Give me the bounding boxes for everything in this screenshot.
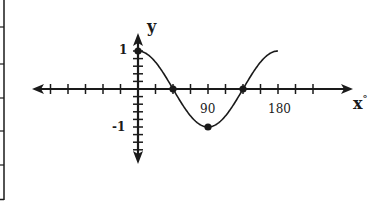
marked-point bbox=[134, 47, 141, 54]
cosine-graph bbox=[0, 0, 375, 205]
x-axis-label: x° bbox=[353, 96, 368, 112]
left-border-scale bbox=[0, 0, 4, 200]
x-axis-degree-symbol: ° bbox=[363, 93, 368, 104]
marked-point bbox=[204, 123, 211, 130]
y-tick-label-1: 1 bbox=[119, 44, 127, 56]
marked-point bbox=[239, 85, 246, 92]
x-tick-label-90: 90 bbox=[200, 103, 215, 115]
y-tick-label-neg1: -1 bbox=[112, 121, 125, 133]
x-axis-letter: x bbox=[353, 94, 363, 113]
x-tick-label-180: 180 bbox=[268, 103, 291, 115]
marked-point bbox=[169, 85, 176, 92]
y-axis-label: y bbox=[147, 19, 156, 35]
